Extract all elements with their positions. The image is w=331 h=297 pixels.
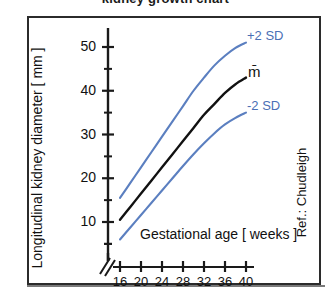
chart-figure: kidney growth chart Longitudinal kidney … — [0, 0, 331, 297]
curve-label-lower: -2 SD — [247, 98, 280, 113]
y-tick-label: 40 — [62, 82, 96, 98]
reference-note: Ref.: Chudleigh — [294, 128, 309, 258]
curve-label-upper: +2 SD — [247, 28, 284, 43]
curve-lower-2sd — [120, 113, 246, 240]
y-tick-label: 20 — [62, 169, 96, 185]
x-tick-label: 40 — [233, 274, 259, 289]
y-axis-title: Longitudinal kidney diameter [ mm ] — [29, 43, 45, 273]
curve-mean — [120, 78, 246, 220]
y-tick-label: 10 — [62, 213, 96, 229]
y-tick-label: 30 — [62, 126, 96, 142]
curve-upper-2sd — [120, 43, 246, 198]
curve-label-mean: m̄ — [248, 63, 261, 80]
y-tick-label: 50 — [62, 38, 96, 54]
x-axis-title: Gestational age [ weeks ] — [140, 226, 297, 242]
plot-canvas — [0, 0, 331, 297]
